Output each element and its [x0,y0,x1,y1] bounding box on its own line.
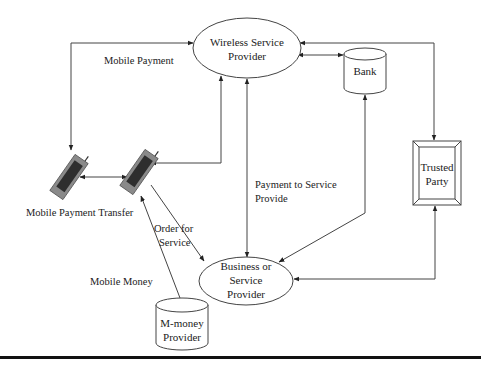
node-wireless-service-provider: Wireless Service Provider [193,18,301,78]
label-order-for-service-line1: Order for [154,223,194,234]
node-business-service-provider: Business or Service Provider [199,257,293,305]
business-label-line2: Service [230,274,263,286]
node-trusted-party: Trusted Party [413,141,461,205]
label-mobile-payment-transfer: Mobile Payment Transfer [26,207,134,218]
label-mobile-money: Mobile Money [90,276,153,287]
bank-label: Bank [353,65,377,77]
trusted-label-line1: Trusted [420,161,454,173]
label-payment-to-service-line1: Payment to Service [255,179,337,190]
business-label-line3: Provider [227,288,265,300]
payment-flow-diagram: Wireless Service Provider Bank Trusted P… [0,0,481,371]
wireless-label-line1: Wireless Service [210,36,284,48]
business-label-line1: Business or [220,260,271,272]
node-bank: Bank [344,48,386,94]
bottom-rule [0,356,481,359]
node-m-money-provider: M-money Provider [156,298,208,350]
edge-phone-to-wireless [151,76,221,163]
label-order-for-service-line2: Service [159,237,191,248]
phone-receiver-icon [120,144,162,194]
phone-sender-icon [50,149,92,199]
edge-business-to-trusted [294,206,435,279]
trusted-label-line2: Party [425,175,449,187]
mmoney-label-line2: Provider [163,331,201,343]
label-mobile-payment: Mobile Payment [104,55,174,66]
label-payment-to-service-line2: Provide [255,193,288,204]
mmoney-label-line1: M-money [160,317,204,329]
wireless-label-line2: Provider [228,50,266,62]
